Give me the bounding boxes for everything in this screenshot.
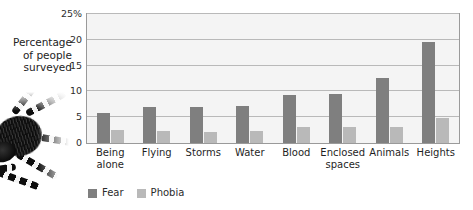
x-axis-category-labels: BeingaloneFlyingStormsWaterBloodEnclosed… xyxy=(87,147,459,175)
y-axis-tick-25: 25% xyxy=(52,9,82,19)
x-axis-label-7: Heights xyxy=(406,147,467,159)
x-axis-label-line: spaces xyxy=(313,159,374,171)
bar-chart-figure: 0510152025% BeingaloneFlyingStormsWaterB… xyxy=(0,0,473,210)
y-axis-tick-0: 0 xyxy=(52,138,82,148)
bar-fear-3 xyxy=(236,106,249,143)
y-axis-tick-20: 20 xyxy=(52,35,82,45)
y-axis-tick-5: 5 xyxy=(52,112,82,122)
legend-swatch-fear xyxy=(88,189,97,198)
bar-phobia-6 xyxy=(390,127,403,144)
bar-phobia-7 xyxy=(436,118,449,143)
y-axis-tick-15: 15 xyxy=(52,61,82,71)
legend-item-fear[interactable]: Fear xyxy=(88,188,124,198)
bar-phobia-4 xyxy=(297,127,310,143)
bar-group xyxy=(227,14,274,143)
bar-fear-4 xyxy=(283,95,296,144)
x-axis-label-line: alone xyxy=(80,159,141,171)
legend-swatch-phobia xyxy=(137,189,146,198)
bar-fear-5 xyxy=(329,94,342,143)
bar-fear-6 xyxy=(376,78,389,143)
legend-label-phobia: Phobia xyxy=(151,188,185,198)
bar-fear-7 xyxy=(422,42,435,143)
bar-phobia-5 xyxy=(343,127,356,144)
bars-layer xyxy=(87,14,459,143)
bar-phobia-3 xyxy=(250,131,263,143)
bar-group xyxy=(366,14,413,143)
bar-phobia-2 xyxy=(204,132,217,143)
bar-group xyxy=(413,14,460,143)
bar-group xyxy=(134,14,181,143)
bar-phobia-0 xyxy=(111,130,124,143)
bar-group xyxy=(320,14,367,143)
y-axis-tick-10: 10 xyxy=(52,86,82,96)
y-axis-tick-labels: 0510152025% xyxy=(52,0,82,158)
bar-fear-1 xyxy=(143,107,156,143)
bar-phobia-1 xyxy=(157,131,170,143)
bar-fear-2 xyxy=(190,107,203,143)
chart-legend: FearPhobia xyxy=(88,186,184,200)
bar-group xyxy=(180,14,227,143)
bar-group xyxy=(273,14,320,143)
x-axis-label-line: Heights xyxy=(406,147,467,159)
legend-label-fear: Fear xyxy=(102,188,124,198)
legend-item-phobia[interactable]: Phobia xyxy=(137,188,185,198)
bar-fear-0 xyxy=(97,113,110,143)
bar-group xyxy=(87,14,134,143)
